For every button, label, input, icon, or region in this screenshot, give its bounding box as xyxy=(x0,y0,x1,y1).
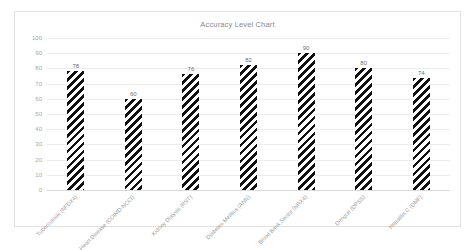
y-axis-tick-label: 90 xyxy=(35,50,42,56)
chart-title: Accuracy Level Chart xyxy=(15,20,460,29)
bar-slot: 76 xyxy=(162,38,220,190)
y-axis-tick-label: 80 xyxy=(35,65,42,71)
x-axis-slot: Dengue (DPSS) xyxy=(335,190,393,248)
x-axis-slot: Tuberculosis (NFDX4) xyxy=(47,190,105,248)
bar[interactable]: 74 xyxy=(413,78,430,190)
y-axis-tick-label: 40 xyxy=(35,126,42,132)
x-axis-slot: Blood Bank Sector (NRX4) xyxy=(277,190,335,248)
y-axis-tick-label: 10 xyxy=(35,172,42,178)
y-axis-tick-label: 30 xyxy=(35,141,42,147)
x-axis-slot: Diabetes Mellitus (ANN) xyxy=(220,190,278,248)
bar-value-label: 82 xyxy=(245,57,252,63)
x-axis-slot: Heart Disease (COIMD-NCCI) xyxy=(105,190,163,248)
bar[interactable]: 76 xyxy=(182,74,199,190)
bar-slot: 78 xyxy=(47,38,105,190)
bar[interactable]: 80 xyxy=(355,68,372,190)
bar-slot: 80 xyxy=(335,38,393,190)
bar-value-label: 74 xyxy=(418,70,425,76)
y-axis-tick-label: 0 xyxy=(39,187,42,193)
y-axis-tick-label: 70 xyxy=(35,81,42,87)
y-axis: 1009080706050403020100 xyxy=(15,38,45,190)
bar-value-label: 78 xyxy=(72,63,79,69)
y-axis-tick-label: 20 xyxy=(35,157,42,163)
bar-value-label: 80 xyxy=(360,60,367,66)
bar-slot: 90 xyxy=(277,38,335,190)
bar-slot: 82 xyxy=(220,38,278,190)
bar[interactable]: 82 xyxy=(240,65,257,190)
bar[interactable]: 78 xyxy=(67,71,84,190)
y-axis-tick-label: 50 xyxy=(35,111,42,117)
bar[interactable]: 90 xyxy=(298,53,315,190)
x-axis: Tuberculosis (NFDX4)Heart Disease (COIMD… xyxy=(47,190,450,248)
x-axis-slot: Kidney Dialysis (RST) xyxy=(162,190,220,248)
y-axis-tick-label: 60 xyxy=(35,96,42,102)
bar-slot: 74 xyxy=(392,38,450,190)
chart-container[interactable]: Accuracy Level Chart 1009080706050403020… xyxy=(14,11,461,227)
y-axis-tick-label: 100 xyxy=(32,35,42,41)
x-axis-slot: Hepatitis C (DMF) xyxy=(392,190,450,248)
bar-value-label: 90 xyxy=(303,45,310,51)
bar-value-label: 60 xyxy=(130,91,137,97)
bar[interactable]: 60 xyxy=(125,99,142,190)
bar-slot: 60 xyxy=(105,38,163,190)
bar-value-label: 76 xyxy=(188,66,195,72)
